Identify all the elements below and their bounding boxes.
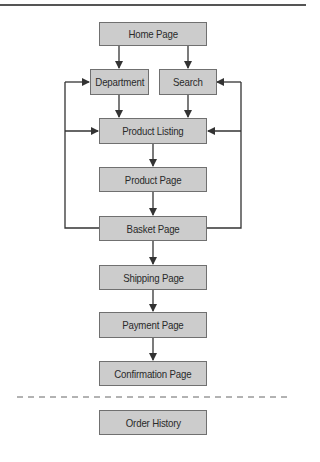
node-label: Search [173, 76, 203, 88]
node-product-page: Product Page [99, 167, 207, 192]
node-shipping-page: Shipping Page [99, 265, 207, 290]
node-search: Search [159, 69, 217, 95]
node-basket-page: Basket Page [99, 216, 207, 241]
node-label: Basket Page [127, 223, 180, 235]
node-label: Payment Page [122, 319, 183, 331]
node-label: Home Page [128, 28, 178, 40]
node-payment-page: Payment Page [99, 312, 207, 338]
node-order-history: Order History [99, 410, 207, 435]
node-confirmation-page: Confirmation Page [99, 361, 207, 386]
node-label: Order History [125, 417, 180, 429]
node-label: Department [95, 76, 144, 88]
node-product-listing: Product Listing [99, 118, 207, 144]
node-label: Product Page [125, 174, 182, 186]
node-department: Department [90, 69, 149, 95]
node-label: Product Listing [122, 125, 183, 137]
node-home-page: Home Page [99, 22, 207, 46]
node-label: Confirmation Page [114, 368, 191, 380]
node-label: Shipping Page [123, 272, 184, 284]
